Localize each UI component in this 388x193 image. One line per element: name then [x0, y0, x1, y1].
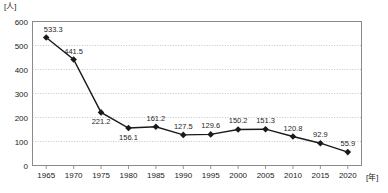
- data-point-label: 55.9: [340, 139, 355, 148]
- line-chart: [人] 0100200300400500600 1965197019751980…: [0, 0, 388, 193]
- x-axis-unit-label: [年]: [366, 173, 378, 183]
- data-point-value-labels: 533.3441.5221.2156.1161.2127.5129.6150.2…: [0, 0, 388, 193]
- data-point-label: 127.5: [174, 122, 193, 131]
- data-point-label: 151.3: [256, 116, 275, 125]
- data-point-label: 92.9: [313, 130, 328, 139]
- data-point-label: 221.2: [92, 117, 111, 126]
- data-point-label: 120.8: [284, 124, 303, 133]
- data-point-label: 156.1: [119, 133, 138, 142]
- data-point-label: 441.5: [64, 47, 83, 56]
- data-point-label: 129.6: [201, 121, 220, 130]
- data-point-label: 161.2: [146, 114, 165, 123]
- data-point-label: 533.3: [44, 25, 63, 34]
- data-point-label: 150.2: [229, 116, 248, 125]
